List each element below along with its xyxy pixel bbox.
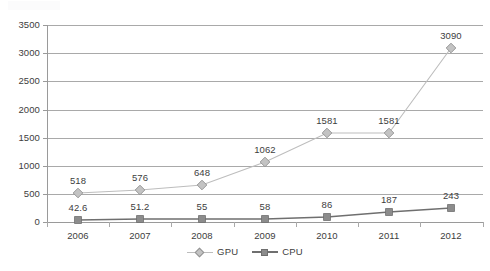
gpu-data-label-2007: 576	[113, 173, 167, 183]
gpu-data-label-2006: 518	[51, 176, 105, 186]
cpu-data-label-2011: 187	[362, 195, 416, 205]
chart-legend: GPU CPU	[0, 247, 490, 257]
legend-label-cpu: CPU	[282, 247, 303, 257]
cpu-data-label-2009: 58	[238, 202, 292, 212]
cpu-legend-swatch	[252, 248, 278, 257]
chart-container: 3500 3000 2500 2000 1500 1000 500 0 2006…	[0, 0, 490, 271]
gpu-data-label-2010: 1581	[300, 116, 354, 126]
gpu-data-label-2009: 1062	[238, 145, 292, 155]
legend-label-gpu: GPU	[217, 247, 238, 257]
gpu-data-label-2012: 3090	[424, 31, 478, 41]
cpu-data-label-2008: 55	[175, 202, 229, 212]
cpu-data-label-2010: 86	[300, 200, 354, 210]
series-layer	[0, 0, 490, 271]
cpu-data-label-2006: 42.6	[51, 203, 105, 213]
gpu-data-label-2011: 1581	[362, 116, 416, 126]
cpu-data-label-2012: 243	[424, 191, 478, 201]
gpu-data-label-2008: 648	[175, 168, 229, 178]
cpu-data-label-2007: 51.2	[113, 202, 167, 212]
legend-item-cpu[interactable]: CPU	[252, 247, 303, 257]
gpu-legend-swatch	[187, 248, 213, 257]
legend-item-gpu[interactable]: GPU	[187, 247, 238, 257]
